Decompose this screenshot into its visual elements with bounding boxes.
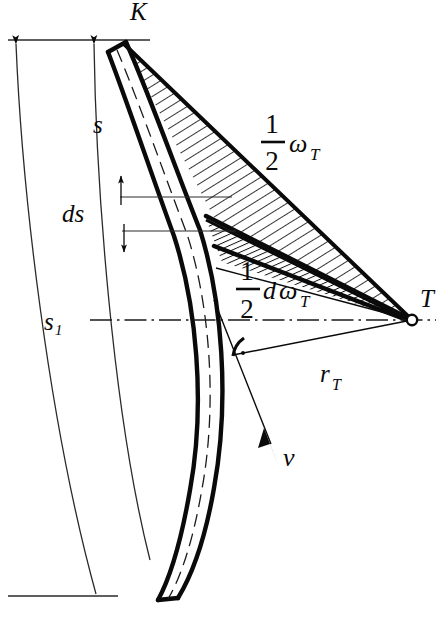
- half-omega-subscript: T: [310, 145, 321, 164]
- half-domega-symbol: ω: [279, 276, 297, 305]
- right-angle-dot: [241, 351, 245, 355]
- label-t: T: [420, 285, 436, 312]
- label-velocity: v: [283, 443, 295, 472]
- diagram-canvas: K T s s₁ ds 1 2 ω T 1 2 d ω T r T: [0, 0, 445, 617]
- half-domega-d: d: [263, 276, 277, 305]
- label-ds: ds: [62, 200, 84, 227]
- label-arc-s1: s₁: [44, 308, 62, 335]
- radius-subscript: T: [332, 376, 342, 393]
- technical-diagram-svg: K T s s₁ ds 1 2 ω T 1 2 d ω T r T: [0, 0, 445, 617]
- half-domega-numerator: 1: [240, 256, 254, 286]
- half-domega-denominator: 2: [240, 294, 254, 324]
- label-arc-s: s: [93, 111, 103, 138]
- label-k: K: [129, 0, 148, 25]
- half-domega-subscript: T: [300, 292, 311, 311]
- half-omega-symbol: ω: [289, 129, 307, 158]
- half-omega-numerator: 1: [265, 109, 279, 139]
- point-t-marker: [407, 315, 417, 325]
- radius-symbol: r: [320, 360, 330, 387]
- half-omega-denominator: 2: [265, 146, 279, 176]
